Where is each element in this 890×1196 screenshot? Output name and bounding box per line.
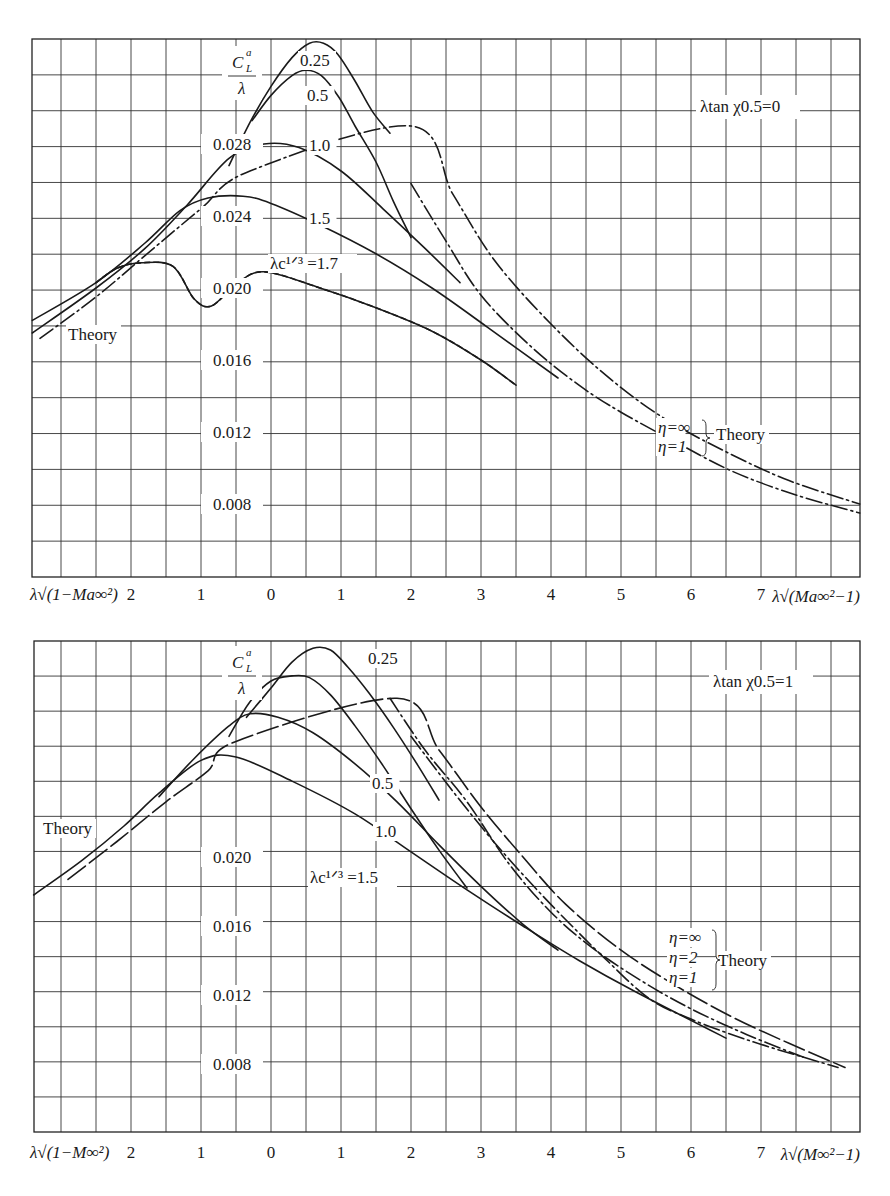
figure: 0.0280.0240.0200.0160.0120.0082101234567… — [0, 0, 890, 1196]
curve--c-1-3-0-25 — [247, 647, 440, 800]
x-axis-label-subsonic: λ√(1−M∞²) — [29, 1143, 110, 1162]
x-tick-label: 3 — [477, 1143, 486, 1162]
curve-label-eta_1: η=1 — [669, 968, 697, 987]
bottom-curves — [34, 647, 845, 1067]
y-tick-label: 0.012 — [213, 986, 251, 1005]
curve-label-theory_left: Theory — [43, 819, 93, 838]
y-tick-label: 0.028 — [213, 135, 251, 154]
curve-label-theory_right: Theory — [718, 951, 768, 970]
curve-label-c15: 1.5 — [309, 209, 330, 228]
curve-label-eta_1: η=1 — [658, 437, 686, 456]
condition-label: λtan χ0.5=1 — [713, 672, 793, 691]
curve-label-eta_2: η=2 — [669, 948, 698, 967]
curve-label-eta_inf: η=∞ — [669, 928, 701, 947]
bottom-labels: 0.0200.0160.0120.0082101234567λ√(1−M∞²)λ… — [29, 646, 860, 1164]
curve-theory-1 — [411, 184, 860, 513]
top-chart: 0.0280.0240.0200.0160.0120.0082101234567… — [29, 39, 860, 606]
curve--c-1-3-1-5 — [32, 196, 558, 378]
x-tick-label: 2 — [127, 585, 136, 604]
x-tick-label: 1 — [337, 1143, 346, 1162]
curve-label-c025: 0.25 — [300, 51, 330, 70]
bottom-grid — [34, 641, 860, 1132]
y-tick-label: 0.008 — [213, 495, 251, 514]
y-axis-label-superscript: a — [246, 46, 252, 58]
y-tick-label: 0.020 — [213, 848, 251, 867]
curve-label-c17: λc¹ᐟ³ =1.7 — [270, 254, 339, 273]
x-tick-label: 1 — [197, 585, 206, 604]
y-tick-label: 0.016 — [213, 917, 251, 936]
condition-label: λtan χ0.5=0 — [700, 97, 780, 116]
y-tick-label: 0.008 — [213, 1055, 251, 1074]
x-tick-label: 0 — [267, 585, 276, 604]
curve--c-1-3-1-0 — [159, 713, 558, 950]
y-axis-label-superscript: a — [246, 646, 252, 658]
x-tick-label: 4 — [547, 585, 556, 604]
curve-label-c10: 1.0 — [375, 822, 396, 841]
x-tick-label: 2 — [127, 1143, 136, 1162]
x-tick-label: 3 — [477, 585, 486, 604]
curve--c-1-3-1-5 — [34, 755, 726, 1038]
y-tick-label: 0.012 — [213, 423, 251, 442]
bottom-chart: 0.0200.0160.0120.0082101234567λ√(1−M∞²)λ… — [29, 641, 860, 1164]
y-tick-label: 0.016 — [213, 351, 251, 370]
y-axis-label-denominator: λ — [237, 679, 245, 698]
curve-label-theory_right: Theory — [716, 425, 766, 444]
x-axis-label-supersonic: λ√(M∞²−1) — [780, 1145, 861, 1164]
x-tick-label: 6 — [687, 585, 696, 604]
x-tick-label: 2 — [407, 585, 416, 604]
curve-label-theory_left: Theory — [68, 325, 118, 344]
curve-label-eta_inf: η=∞ — [658, 418, 690, 437]
x-tick-label: 1 — [197, 1143, 206, 1162]
curve-label-c10: 1.0 — [309, 136, 330, 155]
x-axis-label-supersonic: λ√(Ma∞²−1) — [771, 587, 860, 606]
y-axis-label-subscript: L — [245, 662, 252, 674]
y-axis-label-numerator: C — [232, 53, 244, 72]
x-tick-label: 0 — [267, 1143, 276, 1162]
x-tick-label: 1 — [337, 585, 346, 604]
x-tick-label: 7 — [757, 585, 766, 604]
curve-label-c025: 0.25 — [368, 649, 398, 668]
x-tick-label: 4 — [547, 1143, 556, 1162]
curve-label-c15: λc¹ᐟ³ =1.5 — [310, 868, 378, 887]
y-tick-label: 0.024 — [213, 207, 252, 226]
x-tick-label: 5 — [617, 1143, 626, 1162]
x-axis-label-subsonic: λ√(1−Ma∞²) — [29, 585, 118, 604]
y-axis-label-subscript: L — [245, 62, 252, 74]
x-tick-label: 6 — [687, 1143, 696, 1162]
y-axis-label-denominator: λ — [237, 79, 245, 98]
curve-label-c05: 0.5 — [307, 86, 328, 105]
x-tick-label: 7 — [757, 1143, 766, 1162]
curve-theory-1 — [411, 736, 838, 1067]
y-axis-label-numerator: C — [232, 653, 244, 672]
y-tick-label: 0.020 — [213, 279, 251, 298]
curve-label-c05: 0.5 — [372, 774, 393, 793]
curve-theory-2 — [390, 698, 803, 1057]
x-tick-label: 2 — [407, 1143, 416, 1162]
brace-icon — [702, 420, 710, 456]
x-tick-label: 5 — [617, 585, 626, 604]
